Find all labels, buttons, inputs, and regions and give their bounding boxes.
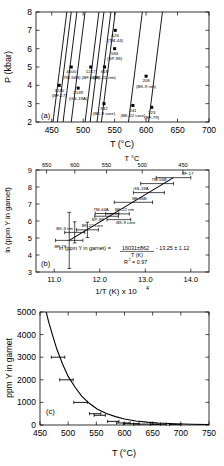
isopleth-label: 500: [113, 1, 120, 10]
data-point-sample: (BF-17): [52, 93, 67, 98]
y-tick-label: 4: [28, 251, 32, 260]
panel-b-xlabel-exponent: 4: [146, 285, 149, 291]
data-point-marker: [145, 75, 148, 78]
data-point-value: 3240: [54, 88, 64, 93]
data-point-sample: (BK-9 core): [93, 111, 116, 116]
x-tick-label: 650: [146, 428, 160, 438]
top-tick-label: 650: [42, 162, 51, 168]
y-tick-label: 4: [27, 80, 32, 90]
data-point-marker: [150, 106, 153, 109]
equation-denominator: T (K): [131, 252, 143, 258]
r-squared-exponent: 2: [129, 258, 131, 262]
x-tick-label: 11.0: [47, 275, 61, 284]
y-tick-label: 3: [28, 268, 32, 277]
data-point-sample: (SP-98): [107, 56, 123, 61]
panel-a-ylabel: P (kbar): [3, 51, 13, 83]
y-tick-label: 4000: [17, 330, 36, 340]
data-point-marker: [102, 102, 105, 105]
isopleth-label: 800: [102, 1, 109, 10]
equation-lhs: ln (ppm Y in garnet) =: [59, 245, 111, 251]
x-tick-label: 650: [170, 125, 184, 135]
data-point-value: 626: [112, 33, 120, 38]
top-tick-label: 450: [178, 162, 187, 168]
panel-b-equation: ln (ppm Y in garnet) = 16031±862 T (K) -…: [59, 245, 189, 266]
y-tick-label: 6: [27, 44, 32, 54]
isopleth-label: 5000: [65, 0, 73, 10]
sample-label: BF-17: [182, 171, 194, 176]
x-tick-label: 550: [108, 125, 122, 135]
y-tick-label: 5: [27, 62, 32, 72]
equation-numerator: 16031±862: [122, 245, 149, 251]
panel-c-svg: 4505005506006507007500100020003000400050…: [0, 304, 224, 466]
data-point-marker: [114, 29, 117, 32]
data-point-sample: (TM-44): [107, 38, 123, 43]
panel-c: 4505005506006507007500100020003000400050…: [0, 304, 224, 466]
panel-c-decay-curve: [45, 305, 209, 424]
panel-c-tag: (c): [46, 407, 55, 416]
isopleth-label: 100 ppm: [160, 0, 170, 10]
equation-intercept: - 13.25 ± 1.12: [156, 245, 189, 251]
data-point-marker: [58, 84, 61, 87]
panel-a-frame: [36, 12, 209, 122]
y-tick-label: 3: [27, 99, 32, 109]
x-tick-label: 450: [45, 125, 59, 135]
isopleth-line: [128, 12, 142, 122]
data-point-sample: (BK-22 rim): [93, 75, 116, 80]
data-point-marker: [89, 66, 92, 69]
sample-label: GS-19A: [133, 186, 148, 191]
x-tick-label: 12.0: [92, 275, 107, 284]
x-tick-label: 500: [61, 428, 75, 438]
x-tick-label: 700: [202, 125, 216, 135]
panel-b-xlabel: 1/T (K) x 10: [95, 287, 137, 296]
x-tick-label: 500: [76, 125, 90, 135]
x-tick-label: 700: [174, 428, 188, 438]
data-point-value: 241: [129, 108, 137, 113]
data-point-value: 583: [111, 51, 119, 56]
isopleth-label: 1000: [97, 0, 105, 10]
panel-b-ylabel: ln (ppm Y in garnet): [3, 187, 12, 253]
data-point-sample: (BK-22 core): [120, 113, 145, 118]
data-point-value: 618: [101, 69, 109, 74]
y-tick-label: 3000: [17, 352, 36, 362]
data-point-sample: (GS-19A): [69, 96, 88, 101]
y-tick-label: 9: [28, 166, 32, 175]
panel-a-tag: (a): [41, 111, 51, 120]
sample-label: BK-9 rim: [56, 226, 73, 231]
panel-a-xlabel: T (°C): [110, 139, 134, 149]
y-tick-label: 1000: [17, 397, 36, 407]
data-point-value: 1217: [86, 69, 96, 74]
y-tick-label: 7: [28, 200, 32, 209]
x-tick-label: 550: [89, 428, 103, 438]
data-point-value: 2149: [73, 90, 83, 95]
y-tick-label: 6: [28, 217, 32, 226]
panel-c-frame: [40, 312, 209, 425]
panel-c-xlabel: T (°C): [112, 448, 136, 458]
x-tick-label: 600: [117, 428, 131, 438]
data-point-sample: (BK-9 rim): [136, 84, 157, 89]
sample-label: SP-98: [92, 217, 105, 222]
y-tick-label: 7: [27, 25, 32, 35]
data-point-marker: [70, 66, 73, 69]
data-point-marker: [131, 104, 134, 107]
data-point-sample: (BF-79): [144, 115, 159, 120]
data-point-value: 208: [142, 78, 150, 83]
panel-a-svg: 4505005506006507002345678 50004000300020…: [0, 0, 224, 152]
data-point-value: 332: [100, 106, 108, 111]
figure-root: 4505005506006507002345678 50004000300020…: [0, 0, 224, 466]
x-tick-label: 14.0: [183, 275, 198, 284]
panel-a: 4505005506006507002345678 50004000300020…: [0, 0, 224, 152]
isopleth-line: [149, 12, 163, 122]
y-tick-label: 2: [27, 117, 32, 127]
isopleth-line: [71, 12, 85, 122]
isopleth-label: 3000: [75, 0, 83, 10]
data-point-value: 123: [148, 110, 156, 115]
y-tick-label: 8: [27, 7, 32, 17]
sample-label: BK-22 rim: [115, 207, 135, 212]
sample-label: BK-9 core: [116, 220, 136, 225]
y-tick-label: 0: [31, 420, 36, 430]
data-point-marker: [103, 66, 106, 69]
r-squared-value: = 0.97: [132, 259, 147, 265]
isopleth-label: 2000: [83, 0, 91, 10]
sample-label: TM-56B: [151, 177, 166, 182]
data-point-marker: [113, 47, 116, 50]
